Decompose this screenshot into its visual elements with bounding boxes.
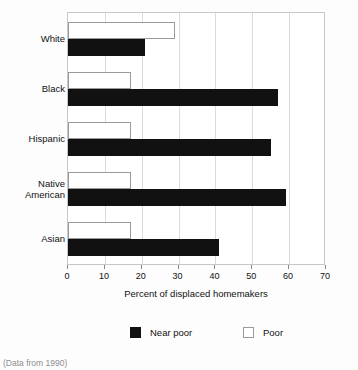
x-tick-label-60: 60	[273, 271, 303, 281]
x-tick-label-0: 0	[52, 271, 82, 281]
bar-native-american-near-poor	[68, 189, 286, 206]
bar-group-black	[68, 63, 324, 113]
legend-swatch-near-poor-icon	[130, 327, 141, 338]
x-tick-20	[141, 265, 142, 269]
plot-area	[67, 12, 325, 265]
bar-asian-poor	[68, 222, 131, 239]
bar-group-hispanic	[68, 113, 324, 163]
x-tick-30	[178, 265, 179, 269]
chart-legend: Near poor Poor	[0, 327, 358, 343]
bar-group-white	[68, 13, 324, 63]
x-tick-60	[288, 265, 289, 269]
bar-group-asian	[68, 213, 324, 263]
bar-asian-near-poor	[68, 239, 219, 256]
x-tick-50	[251, 265, 252, 269]
bar-black-near-poor	[68, 89, 278, 106]
x-axis-title: Percent of displaced homemakers	[0, 288, 358, 299]
bar-group-native-american	[68, 163, 324, 213]
category-label-black: Black	[42, 83, 65, 94]
x-tick-10	[104, 265, 105, 269]
bar-hispanic-poor	[68, 122, 131, 139]
x-tick-label-70: 70	[310, 271, 340, 281]
bar-hispanic-near-poor	[68, 139, 271, 156]
category-label-hispanic: Hispanic	[29, 133, 65, 144]
bar-native-american-poor	[68, 172, 131, 189]
x-tick-label-20: 20	[126, 271, 156, 281]
category-label-white: White	[41, 33, 65, 44]
x-tick-label-40: 40	[199, 271, 229, 281]
bar-black-poor	[68, 72, 131, 89]
x-tick-0	[67, 265, 68, 269]
x-tick-label-30: 30	[163, 271, 193, 281]
legend-swatch-poor-icon	[243, 327, 254, 338]
x-tick-label-50: 50	[236, 271, 266, 281]
legend-item-near-poor: Near poor	[130, 327, 192, 338]
x-tick-label-10: 10	[89, 271, 119, 281]
source-note: (Data from 1990)	[3, 358, 67, 368]
bar-white-near-poor	[68, 39, 145, 56]
category-label-native-american: Native American	[25, 178, 65, 200]
legend-label-near-poor: Near poor	[150, 327, 192, 338]
bar-white-poor	[68, 22, 175, 39]
legend-label-poor: Poor	[263, 327, 283, 338]
legend-item-poor: Poor	[243, 327, 283, 338]
x-tick-40	[214, 265, 215, 269]
category-label-asian: Asian	[41, 233, 65, 244]
x-tick-70	[325, 265, 326, 269]
bar-chart-figure: White Black Hispanic Native American Asi…	[0, 0, 358, 370]
